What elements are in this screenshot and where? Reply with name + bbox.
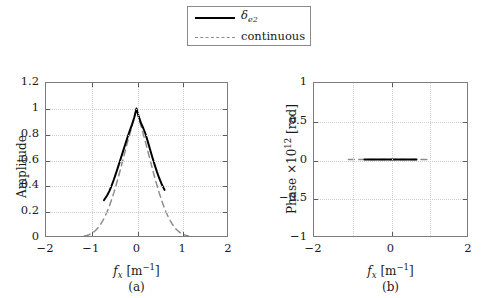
phase-curves [314, 83, 467, 236]
y-tick-label: 1 [300, 76, 307, 88]
subfigure-label-b: (b) [382, 281, 399, 293]
gridline-horizontal [46, 109, 227, 110]
x-tick-mark [183, 83, 184, 87]
x-axis-unit-open: [m [377, 264, 397, 278]
amplitude-plot-area [46, 83, 227, 236]
x-tick-label: 0 [133, 243, 140, 255]
x-axis-unit-exponent: −1 [142, 262, 155, 272]
x-tick-label: 2 [224, 243, 231, 255]
figure-legend: δe2 continuous [187, 6, 311, 46]
gridline-horizontal [314, 122, 467, 123]
x-axis-unit-exponent: −1 [396, 262, 409, 272]
y-tick-mark [314, 199, 318, 200]
x-tick-mark [392, 232, 393, 236]
y-tick-mark [46, 161, 50, 162]
y-tick-label: −1 [290, 231, 307, 243]
y-tick-mark [463, 122, 467, 123]
gridline-vertical [353, 83, 354, 236]
gridline-horizontal [314, 161, 467, 162]
x-tick-label: 2 [464, 243, 471, 255]
y-tick-mark [46, 109, 50, 110]
legend-entry-delta-e2: δe2 [188, 7, 310, 27]
x-tick-mark [183, 232, 184, 236]
gridline-horizontal [46, 161, 227, 162]
y-tick-mark [463, 161, 467, 162]
y-tick-mark [223, 186, 227, 187]
legend-symbol-delta: δ [241, 8, 248, 22]
y-tick-label: 0 [32, 231, 39, 243]
gridline-vertical [392, 83, 393, 236]
figure-canvas: δe2 continuous −2−101200.20.40.60.811.2 … [0, 0, 481, 298]
x-tick-mark [392, 83, 393, 87]
x-tick-mark [92, 232, 93, 236]
y-tick-label: 1 [32, 102, 39, 114]
y-tick-mark [314, 122, 318, 123]
x-tick-mark [92, 83, 93, 87]
gridline-horizontal [46, 135, 227, 136]
y-tick-mark [223, 109, 227, 110]
y-tick-mark [223, 161, 227, 162]
y-tick-mark [223, 135, 227, 136]
y-tick-mark [46, 186, 50, 187]
x-axis-unit-close: ] [155, 264, 160, 278]
x-axis-unit-open: [m [123, 264, 143, 278]
x-tick-label: 0 [387, 243, 394, 255]
y-tick-mark [46, 212, 50, 213]
x-tick-label: −2 [37, 243, 54, 255]
legend-entry-continuous: continuous [188, 27, 310, 47]
gridline-horizontal [314, 199, 467, 200]
phase-x-axis-label: fx [m−1] [367, 263, 413, 280]
x-tick-mark [138, 83, 139, 87]
x-tick-label: 1 [179, 243, 186, 255]
phase-plot-axes [313, 82, 468, 237]
y-tick-label: 0 [300, 154, 307, 166]
phase-label-exponent: 12 [283, 138, 293, 149]
gridline-horizontal [46, 186, 227, 187]
phase-label-unit: [rad] [285, 104, 299, 138]
legend-label-delta-e2: δe2 [241, 10, 258, 24]
y-tick-mark [46, 135, 50, 136]
amplitude-plot-axes [45, 82, 228, 237]
gridline-vertical [430, 83, 431, 236]
x-tick-label: −1 [82, 243, 99, 255]
legend-symbol-subscript: e2 [248, 15, 258, 24]
phase-plot-area [314, 83, 467, 236]
y-tick-mark [223, 212, 227, 213]
dashed-line-sample [195, 32, 235, 42]
y-tick-label: 0.2 [21, 205, 39, 217]
gridline-vertical [183, 83, 184, 236]
phase-label-base: Phase ×10 [285, 149, 299, 214]
x-tick-label: −2 [305, 243, 322, 255]
y-tick-mark [463, 199, 467, 200]
y-tick-label: 1.2 [21, 76, 39, 88]
gridline-horizontal [46, 212, 227, 213]
y-tick-mark [314, 161, 318, 162]
x-tick-mark [138, 232, 139, 236]
phase-y-axis-label: Phase ×1012 [rad] [284, 104, 298, 214]
subfigure-label-a: (a) [128, 281, 145, 293]
legend-label-continuous: continuous [241, 31, 305, 43]
gridline-vertical [92, 83, 93, 236]
x-axis-unit-close: ] [409, 264, 414, 278]
gridline-vertical [138, 83, 139, 236]
amplitude-x-axis-label: fx [m−1] [113, 263, 159, 280]
amplitude-y-axis-label: Amplitude [16, 135, 28, 198]
solid-line-sample [195, 12, 235, 22]
series-continuous [84, 108, 188, 236]
